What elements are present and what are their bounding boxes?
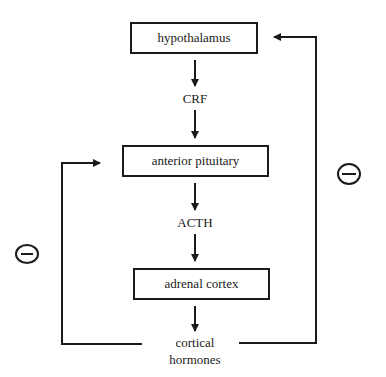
label-cortical-hormones: cortical hormones — [150, 334, 240, 368]
minus-circle-icon — [338, 164, 360, 184]
minus-circle-icon — [16, 245, 38, 263]
node-label: anterior pituitary — [152, 153, 240, 169]
node-label: adrenal cortex — [165, 276, 239, 292]
label-crf: CRF — [165, 90, 225, 107]
node-hypothalamus: hypothalamus — [130, 22, 258, 54]
diagram-wires — [0, 0, 386, 377]
node-label: hypothalamus — [158, 30, 231, 46]
node-anterior-pituitary: anterior pituitary — [122, 145, 269, 177]
label-line: hormones — [150, 351, 240, 368]
label-line: cortical — [150, 334, 240, 351]
node-adrenal-cortex: adrenal cortex — [133, 268, 270, 300]
feedback-line-pituitary — [62, 163, 142, 344]
label-acth: ACTH — [165, 214, 225, 231]
